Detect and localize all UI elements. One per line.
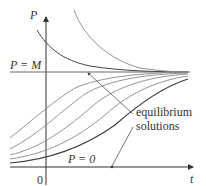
equilibrium-m-label: P = M <box>10 59 41 71</box>
logistic-diagram: P t 0 P = M P = 0 equilibrium solutions <box>0 0 206 186</box>
equilibrium-annotation: equilibrium solutions <box>136 105 192 133</box>
pointer-dot <box>111 166 114 169</box>
diagram-graphics <box>0 0 206 186</box>
solution-curve-above-1 <box>37 30 188 72</box>
t-axis-label: t <box>190 173 193 185</box>
origin-label: 0 <box>37 174 43 186</box>
p-axis-label: P <box>30 9 37 21</box>
pointer-to-zero <box>112 127 133 166</box>
solution-curve-above-2 <box>74 10 188 72</box>
equilibrium-zero-label: P = 0 <box>68 153 95 165</box>
annotation-line-1: equilibrium <box>136 105 192 119</box>
annotation-line-2: solutions <box>136 119 192 133</box>
